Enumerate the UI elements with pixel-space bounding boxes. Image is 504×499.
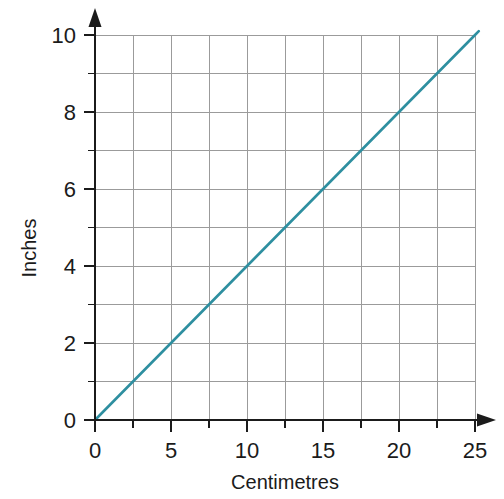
x-tick-label-10: 10 bbox=[235, 438, 259, 463]
x-tick-label-15: 15 bbox=[311, 438, 335, 463]
x-axis bbox=[95, 414, 496, 433]
x-tick-label-0: 0 bbox=[89, 438, 101, 463]
series-conversion-line bbox=[95, 31, 479, 420]
y-tick-label-6: 6 bbox=[64, 177, 76, 202]
x-axis-title: Centimetres bbox=[231, 471, 339, 493]
x-tick-label-20: 20 bbox=[387, 438, 411, 463]
y-tick-label-2: 2 bbox=[64, 331, 76, 356]
x-tick-label-25: 25 bbox=[463, 438, 487, 463]
x-tick-label-5: 5 bbox=[165, 438, 177, 463]
y-tick-label-8: 8 bbox=[64, 100, 76, 125]
chart-canvas: 0 2 4 6 8 10 0 5 10 15 20 25 Centimetres… bbox=[0, 0, 504, 499]
x-axis-arrow-icon bbox=[477, 414, 496, 427]
conversion-graph-figure: 0 2 4 6 8 10 0 5 10 15 20 25 Centimetres… bbox=[0, 0, 504, 499]
y-tick-label-0: 0 bbox=[64, 408, 76, 433]
y-axis bbox=[84, 8, 102, 420]
y-axis-title: Inches bbox=[18, 219, 40, 278]
x-tick-labels: 0 5 10 15 20 25 bbox=[89, 438, 487, 463]
y-tick-label-4: 4 bbox=[64, 254, 76, 279]
y-tick-label-10: 10 bbox=[52, 23, 76, 48]
y-tick-labels: 0 2 4 6 8 10 bbox=[52, 23, 76, 433]
y-axis-arrow-icon bbox=[89, 8, 102, 27]
